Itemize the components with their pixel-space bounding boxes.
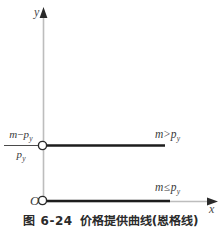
caption-number: 图 6-24 [23,215,72,228]
y-intercept-value-label: m−py py [2,128,40,164]
condition-upper-operator: > [163,128,171,140]
y-axis-label: y [34,6,39,18]
denominator-subscript: y [22,154,26,163]
open-endpoint-lower [38,196,46,204]
x-axis-label: x [209,203,214,215]
y-axis-arrowhead [40,7,48,18]
fraction-denominator: py [2,148,40,164]
condition-label-lower: m≤py [155,182,180,196]
numerator-subscript: y [29,134,33,143]
caption-text: 价格提供曲线(恩格线) [73,215,199,228]
condition-label-upper: m>py [155,129,180,143]
figure-caption: 图 6-24价格提供曲线(恩格线) [0,215,222,228]
condition-lower-operator: ≤ [163,181,170,193]
fraction-bar [4,145,38,146]
condition-upper-subscript: y [177,134,181,143]
condition-lower-subscript: y [176,187,180,196]
fraction-numerator: m−py [2,128,40,144]
condition-upper-term: p [171,128,177,140]
origin-label: O [30,194,39,207]
price-offer-curve-figure: y x O m−py py m>py m≤py 图 6-24价格提供曲线(恩格线… [0,0,222,229]
